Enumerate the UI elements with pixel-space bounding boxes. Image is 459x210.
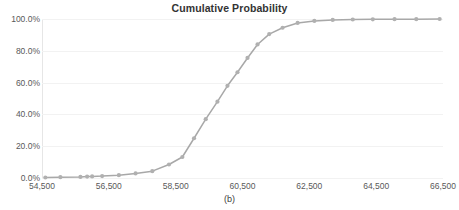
y-axis-tick-labels: 0.0%20.0%40.0%60.0%80.0%100.0% <box>0 0 40 210</box>
gridline <box>42 83 443 84</box>
cumulative-probability-chart: Cumulative Probability 0.0%20.0%40.0%60.… <box>0 0 459 210</box>
y-axis-tick-label: 60.0% <box>0 79 40 87</box>
x-axis-tick-label: 54,500 <box>12 181 72 191</box>
y-axis-tick-label: 20.0% <box>0 142 40 150</box>
x-axis-tick-label: 62,500 <box>279 181 339 191</box>
gridline <box>42 51 443 52</box>
gridline <box>42 178 443 179</box>
x-axis-tick-label: 56,500 <box>79 181 139 191</box>
y-axis-tick-label: 40.0% <box>0 110 40 118</box>
x-axis-tick-label: 60,500 <box>213 181 273 191</box>
figure-caption: (b) <box>0 194 459 204</box>
y-axis-tick-label: 80.0% <box>0 47 40 55</box>
chart-title: Cumulative Probability <box>0 2 459 14</box>
gridline <box>42 146 443 147</box>
gridline <box>42 114 443 115</box>
gridline <box>42 19 443 20</box>
gridlines <box>42 19 443 178</box>
y-axis-tick-label: 100.0% <box>0 15 40 23</box>
x-axis-tick-label: 58,500 <box>146 181 206 191</box>
x-axis-tick-label: 64,500 <box>346 181 406 191</box>
x-axis-tick-label: 66,500 <box>413 181 459 191</box>
